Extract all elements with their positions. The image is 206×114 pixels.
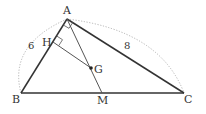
label-c: C [184,93,192,106]
right-angle-mark-h [57,36,63,46]
side-ab [21,19,67,93]
length-label-ac: 8 [124,40,130,51]
label-a: A [62,4,72,17]
label-h: H [42,36,52,49]
centroid-g-dot [89,66,93,70]
length-label-ab: 6 [28,40,34,51]
triangle-diagram: A B C M G H 6 8 [0,0,206,114]
label-g: G [94,63,103,76]
label-m: M [97,94,108,107]
label-b: B [12,93,20,106]
segment-hg [53,42,91,68]
